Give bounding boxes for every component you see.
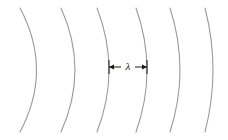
wavelength-lambda-label: λ (125, 60, 131, 72)
figure-background (0, 0, 228, 140)
wavefront-diagram: λ (0, 0, 228, 140)
wavefront-canvas: λ (0, 0, 228, 140)
